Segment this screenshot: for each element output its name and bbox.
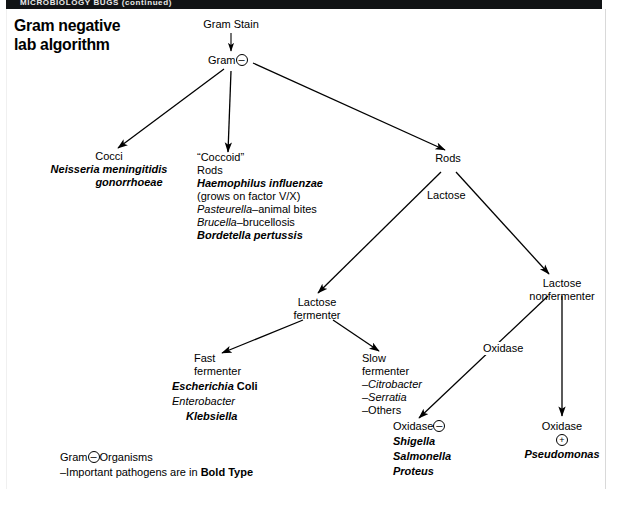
page-title-line1: Gram negative — [14, 16, 191, 35]
node-coccoid-item-0: Haemophilus influenzae — [197, 177, 323, 190]
node-oxidase-positive-symbol-row: + — [508, 433, 616, 447]
node-coccoid-item-2-genus: Pasteurella — [197, 203, 252, 215]
node-coccoid-item-2-note: –animal bites — [252, 203, 317, 215]
node-coccoid-heading-line1: “Coccoid” — [197, 151, 323, 164]
node-fast-fermenter-item-0-species: Coli — [237, 380, 258, 392]
node-cocci-heading: Cocci — [18, 150, 200, 163]
node-fast-fermenter-item-0: Escherichia Coli — [172, 380, 258, 393]
legend-line1: Gram–Organisms — [60, 450, 253, 465]
node-cocci-item-0: Neisseria meningitidis — [18, 163, 200, 176]
diagram-page: MICROBIOLOGY BUGS (continued) Gram negat… — [0, 0, 621, 506]
node-coccoid-item-1: (grows on factor V/X) — [197, 190, 323, 203]
edge-label-oxidase: Oxidase — [482, 342, 524, 355]
page-title-line2: lab algorithm — [14, 35, 191, 54]
node-fast-fermenter-item-2: Klebsiella — [172, 410, 258, 423]
node-coccoid-item-3: Brucella–brucellosis — [197, 216, 323, 229]
node-fast-fermenter: Fast fermenter Escherichia Coli Enteroba… — [172, 352, 258, 423]
node-slow-fermenter-line2: fermenter — [362, 365, 422, 378]
node-oxidase-negative-item-1: Salmonella — [393, 450, 451, 463]
node-coccoid-item-3-genus: Brucella — [197, 216, 237, 228]
node-lactose-nonfermenter-line1: Lactose — [513, 277, 611, 290]
gram-negative-symbol-icon: – — [236, 54, 248, 66]
node-gram-negative: Gram– — [208, 54, 248, 67]
oxidase-positive-symbol-icon: + — [556, 434, 568, 446]
edge-label-lactose: Lactose — [426, 189, 467, 202]
node-slow-fermenter-item-2: –Others — [362, 404, 422, 417]
legend-line1-suffix: Organisms — [100, 451, 153, 463]
node-lactose-fermenter-line2: fermenter — [277, 309, 357, 322]
node-cocci-item-1: gonorrhoeae — [18, 176, 200, 189]
legend-line2-bold: Bold Type — [201, 466, 253, 478]
page-rule-right — [605, 9, 606, 489]
legend: Gram–Organisms –Important pathogens are … — [60, 450, 253, 480]
node-coccoid-item-3-note: –brucellosis — [237, 216, 295, 228]
node-coccoid-item-4: Bordetella pertussis — [197, 229, 323, 242]
header-banner: MICROBIOLOGY BUGS (continued) — [6, 0, 602, 9]
legend-gram-negative-symbol-icon: – — [88, 451, 100, 463]
node-cocci: Cocci Neisseria meningitidis gonorrhoeae — [18, 150, 200, 189]
legend-line2: –Important pathogens are in Bold Type — [60, 465, 253, 480]
node-slow-fermenter-line1: Slow — [362, 352, 422, 365]
page-title: Gram negative lab algorithm — [14, 16, 191, 54]
node-oxidase-negative-label: Oxidase– — [393, 420, 451, 433]
legend-line1-prefix: Gram — [60, 451, 88, 463]
node-rods-label: Rods — [435, 152, 461, 164]
node-slow-fermenter-item-0: –Citrobacter — [362, 378, 422, 391]
node-lactose-fermenter: Lactose fermenter — [277, 296, 357, 322]
node-lactose-fermenter-line1: Lactose — [277, 296, 357, 309]
node-oxidase-negative-item-0: Shigella — [393, 435, 451, 448]
node-coccoid-rods: “Coccoid” Rods Haemophilus influenzae (g… — [197, 151, 323, 242]
node-gram-negative-label: Gram — [208, 54, 236, 66]
node-gram-stain-label: Gram Stain — [203, 18, 259, 30]
node-fast-fermenter-item-1: Enterobacter — [172, 395, 258, 408]
node-fast-fermenter-line2: fermenter — [172, 365, 258, 378]
node-oxidase-negative: Oxidase– Shigella Salmonella Proteus — [393, 420, 451, 478]
page-rule-left — [6, 9, 7, 489]
node-coccoid-item-2: Pasteurella–animal bites — [197, 203, 323, 216]
node-oxidase-negative-item-2: Proteus — [393, 465, 451, 478]
node-lactose-nonfermenter-line2: nonfermenter — [513, 290, 611, 303]
oxidase-negative-symbol-icon: – — [433, 420, 445, 432]
node-coccoid-heading-line2: Rods — [197, 164, 323, 177]
node-fast-fermenter-line1: Fast — [172, 352, 258, 365]
node-oxidase-positive: Oxidase + Pseudomonas — [508, 420, 616, 461]
node-slow-fermenter-item-1: –Serratia — [362, 391, 422, 404]
node-slow-fermenter: Slow fermenter –Citrobacter –Serratia –O… — [362, 352, 422, 417]
node-lactose-nonfermenter: Lactose nonfermenter — [513, 277, 611, 303]
node-oxidase-negative-text: Oxidase — [393, 420, 433, 432]
node-oxidase-positive-label: Oxidase — [508, 420, 616, 433]
header-banner-label: MICROBIOLOGY BUGS (continued) — [20, 0, 172, 7]
node-oxidase-positive-item-0: Pseudomonas — [508, 448, 616, 461]
legend-line2-prefix: –Important pathogens are in — [60, 466, 201, 478]
node-gram-stain: Gram Stain — [189, 18, 273, 31]
node-fast-fermenter-item-0-genus: Escherichia — [172, 380, 237, 392]
node-rods: Rods — [421, 152, 475, 165]
